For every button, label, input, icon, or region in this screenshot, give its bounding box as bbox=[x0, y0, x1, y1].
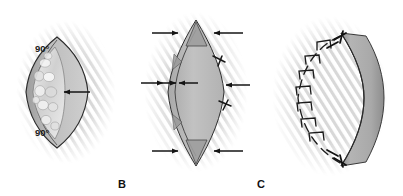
angle-label-bottom: 90° bbox=[35, 127, 50, 138]
panel-a: 90° 90° bbox=[16, 20, 116, 164]
figure-canvas: 90° 90° bbox=[0, 0, 403, 196]
angle-label-top: 90° bbox=[35, 43, 50, 54]
panel-letter-b: B bbox=[118, 178, 126, 190]
panel-letter-c: C bbox=[257, 178, 265, 190]
surgical-illustration: 90° 90° bbox=[0, 0, 403, 196]
